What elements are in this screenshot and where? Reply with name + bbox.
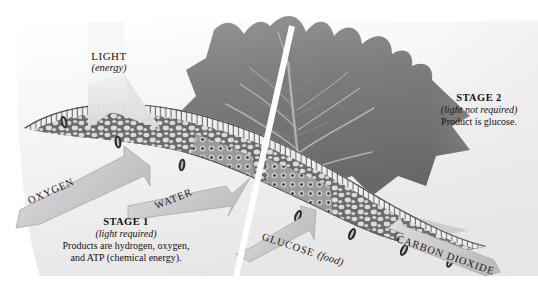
stage-1-line-1: Products are hydrogen, oxygen, [18,240,234,252]
stage-1-line-2: and ATP (chemical energy). [18,252,234,264]
stage-2-subtitle: (light not required) [420,104,538,116]
light-label-sub: (energy) [73,62,145,74]
light-label-main: LIGHT [73,50,145,62]
stage-1-title: STAGE 1 [18,216,234,228]
stage-1-caption: STAGE 1 (light required) Products are hy… [18,216,234,264]
stage-2-title: STAGE 2 [420,92,538,104]
photosynthesis-diagram: LIGHT (energy) STAGE 1 (light required) … [0,0,538,294]
light-label: LIGHT (energy) [73,50,145,74]
stage-2-line-1: Product is glucose. [420,116,538,128]
stage-2-caption: STAGE 2 (light not required) Product is … [420,92,538,128]
stage-1-subtitle: (light required) [18,228,234,240]
